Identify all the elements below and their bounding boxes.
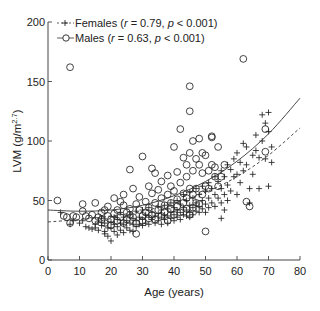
data-point-female [247, 186, 253, 192]
x-tick-label: 30 [136, 265, 148, 277]
x-tick-label: 70 [262, 265, 274, 277]
data-point-male [177, 126, 184, 133]
data-point-female [243, 162, 249, 168]
y-tick-label: 200 [27, 16, 45, 28]
x-tick-label: 20 [105, 265, 117, 277]
data-point-female [215, 195, 221, 201]
data-point-male [136, 194, 143, 201]
data-point-male [186, 83, 193, 90]
plus-marker-icon [62, 20, 68, 26]
data-point-female [108, 238, 114, 244]
data-point-male [186, 150, 193, 157]
data-point-female [259, 112, 265, 118]
data-point-female [259, 138, 265, 144]
data-point-male [202, 228, 209, 235]
data-point-female [256, 155, 262, 161]
data-point-male [152, 170, 159, 177]
data-point-male [167, 183, 174, 190]
data-point-female [225, 198, 231, 204]
data-point-male [177, 179, 184, 186]
legend-entry-females: Females (r = 0.79, p < 0.001) [57, 17, 218, 29]
data-point-male [149, 165, 156, 172]
series-males [54, 55, 269, 237]
data-point-male [240, 55, 247, 62]
data-point-male [79, 201, 86, 208]
data-point-female [86, 225, 92, 231]
data-point-female [266, 109, 272, 115]
data-point-male [183, 173, 190, 180]
data-point-female [228, 188, 234, 194]
data-point-male [262, 148, 269, 155]
legend-entry-males: Males (r = 0.63, p < 0.001) [57, 32, 205, 44]
data-point-female [209, 200, 215, 206]
data-point-female [234, 150, 240, 156]
data-point-female [253, 148, 259, 154]
data-point-male [174, 169, 181, 176]
data-point-female [146, 221, 152, 227]
svg-text:Males (r = 0.63, p < 0.001): Males (r = 0.63, p < 0.001) [75, 32, 205, 44]
data-point-male [183, 161, 190, 168]
data-point-female [114, 232, 120, 238]
data-point-female [266, 183, 272, 189]
data-point-male [196, 161, 203, 168]
data-point-male [139, 153, 146, 160]
data-point-male [164, 172, 171, 179]
data-point-male [67, 64, 74, 71]
data-point-female [218, 215, 224, 221]
data-point-male [92, 199, 99, 206]
data-point-male [111, 195, 118, 202]
y-axis-label: LVM (g/m2.7) [10, 109, 23, 172]
circle-marker-icon [63, 35, 69, 41]
y-tick-label: 50 [33, 195, 45, 207]
y-tick-label: 100 [27, 135, 45, 147]
data-point-female [250, 152, 256, 158]
data-point-female [111, 228, 117, 234]
data-point-male [158, 178, 165, 185]
x-tick-label: 50 [199, 265, 211, 277]
data-point-male [199, 170, 206, 177]
legend-label-males: Males ( [75, 32, 111, 44]
data-point-male [215, 144, 222, 151]
data-point-male [171, 144, 178, 151]
data-point-male [133, 230, 140, 237]
x-tick-label: 10 [73, 265, 85, 277]
y-tick-label: 150 [27, 76, 45, 88]
data-point-male [149, 190, 156, 197]
x-tick-label: 40 [168, 265, 180, 277]
data-point-male [171, 188, 178, 195]
data-point-male [190, 138, 197, 145]
data-point-male [145, 183, 152, 190]
data-point-female [237, 180, 243, 186]
data-point-female [234, 192, 240, 198]
data-point-male [130, 185, 137, 192]
tick-labels: 01020304050607080050100150200 [27, 16, 306, 277]
data-point-female [212, 192, 218, 198]
legend-label-females: Females ( [75, 17, 124, 29]
data-point-male [190, 167, 197, 174]
data-point-female [203, 201, 209, 207]
data-point-male [126, 166, 133, 173]
data-point-male [243, 198, 250, 205]
data-point-female [269, 144, 275, 150]
svg-text:Females (r = 0.79, p < 0.001): Females (r = 0.79, p < 0.001) [75, 17, 218, 29]
data-point-female [206, 205, 212, 211]
data-point-female [243, 144, 249, 150]
y-tick-label: 0 [39, 254, 45, 266]
x-axis-label: Age (years) [144, 286, 204, 298]
data-point-female [253, 132, 259, 138]
data-point-male [120, 191, 127, 198]
data-point-female [218, 200, 224, 206]
scatter-chart: 01020304050607080050100150200 Age (years… [0, 0, 320, 311]
data-point-female [83, 224, 89, 230]
data-point-female [250, 171, 256, 177]
x-tick-label: 80 [294, 265, 306, 277]
plot-area [54, 55, 275, 243]
data-point-male [54, 197, 61, 204]
data-point-female [196, 209, 202, 215]
data-point-female [206, 195, 212, 201]
data-point-female [269, 159, 275, 165]
data-point-female [89, 226, 95, 232]
legend: Females (r = 0.79, p < 0.001) Males (r =… [57, 17, 218, 44]
data-point-female [221, 192, 227, 198]
data-point-female [221, 207, 227, 213]
